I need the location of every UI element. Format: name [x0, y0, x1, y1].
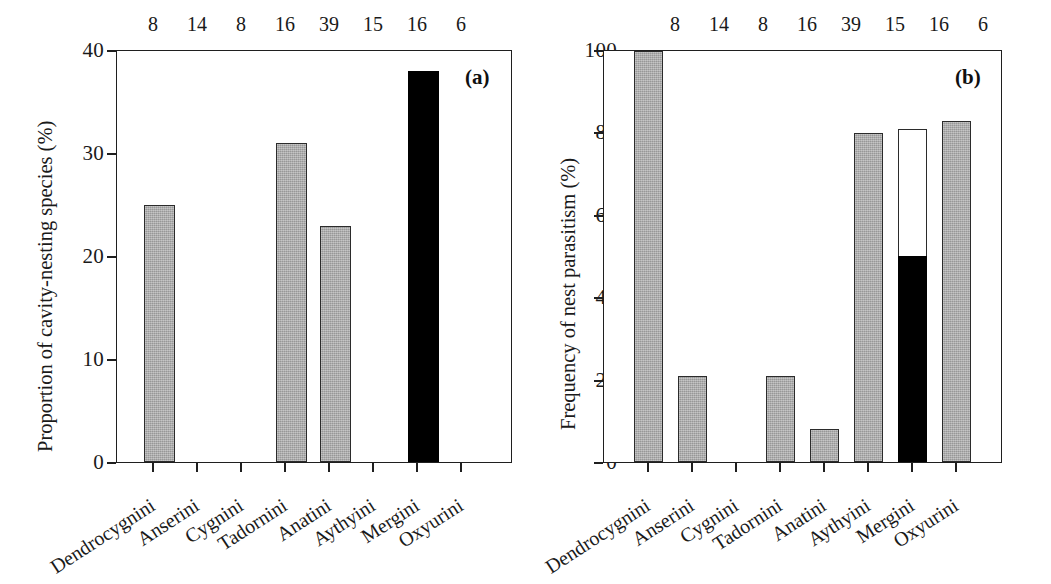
x-tick-a-7 [460, 463, 462, 472]
y-tick-a-10 [107, 359, 116, 361]
x-tick-b-5 [867, 463, 869, 472]
y-tick-label-a-20: 20 [56, 246, 104, 267]
bar-b-mergini-black [898, 256, 927, 462]
bar-b-tadornini [766, 376, 795, 462]
sample-size-b-0: 8 [653, 14, 697, 34]
x-tick-b-1 [691, 463, 693, 472]
bar-b-oxyurini [942, 121, 971, 462]
y-tick-a-20 [107, 256, 116, 258]
bar-a-tadornini [276, 143, 307, 462]
sample-size-b-5: 15 [873, 14, 917, 34]
x-tick-b-6 [911, 463, 913, 472]
y-tick-label-a-40: 40 [56, 40, 104, 61]
sample-size-b-1: 14 [697, 14, 741, 34]
bar-b-aythyini [854, 133, 883, 462]
y-tick-b-20 [594, 380, 603, 382]
y-tick-b-0 [594, 462, 603, 464]
sample-size-a-2: 8 [219, 14, 263, 34]
sample-size-b-2: 8 [741, 14, 785, 34]
sample-size-b-4: 39 [829, 14, 873, 34]
y-tick-b-80 [594, 132, 603, 134]
y-tick-b-100 [594, 50, 603, 52]
y-tick-a-0 [107, 462, 116, 464]
x-tick-a-2 [240, 463, 242, 472]
y-tick-label-a-30: 30 [56, 143, 104, 164]
panel-tag-a: (a) [465, 65, 490, 90]
x-tick-b-2 [735, 463, 737, 472]
bar-a-mergini [408, 71, 439, 462]
y-tick-b-60 [594, 215, 603, 217]
plot-area-a [116, 50, 512, 463]
panel-tag-b: (b) [955, 65, 981, 90]
x-tick-b-3 [779, 463, 781, 472]
sample-size-a-7: 6 [439, 14, 483, 34]
y-tick-a-40 [107, 50, 116, 52]
sample-size-a-6: 16 [395, 14, 439, 34]
y-tick-label-a-0: 0 [56, 452, 104, 473]
panel-b: 8 14 8 16 39 15 16 6 Frequency of nest p… [525, 0, 1050, 584]
y-tick-label-a-10: 10 [56, 349, 104, 370]
x-tick-a-6 [416, 463, 418, 472]
panel-a: 8 14 8 16 39 15 16 6 Proportion of cavit… [0, 0, 525, 584]
y-axis-label-a: Proportion of cavity-nesting species (%) [34, 121, 57, 452]
bar-b-anserini [678, 376, 707, 462]
y-tick-b-40 [594, 297, 603, 299]
bar-b-dendrocygnini [634, 51, 663, 462]
x-tick-a-0 [152, 463, 154, 472]
x-tick-a-4 [328, 463, 330, 472]
x-tick-a-3 [284, 463, 286, 472]
bar-a-dendrocygnini [144, 205, 175, 462]
x-tick-b-7 [955, 463, 957, 472]
sample-size-b-7: 6 [961, 14, 1005, 34]
x-tick-a-5 [372, 463, 374, 472]
sample-size-a-0: 8 [131, 14, 175, 34]
x-tick-a-1 [196, 463, 198, 472]
sample-size-a-3: 16 [263, 14, 307, 34]
sample-size-b-6: 16 [917, 14, 961, 34]
sample-size-a-1: 14 [175, 14, 219, 34]
sample-size-a-4: 39 [307, 14, 351, 34]
x-tick-b-0 [647, 463, 649, 472]
plot-area-b [603, 50, 1002, 463]
sample-size-b-3: 16 [785, 14, 829, 34]
figure-root: 8 14 8 16 39 15 16 6 Proportion of cavit… [0, 0, 1051, 584]
sample-size-a-5: 15 [351, 14, 395, 34]
y-tick-a-30 [107, 153, 116, 155]
x-tick-b-4 [823, 463, 825, 472]
bar-a-anatini [320, 226, 351, 462]
bar-b-anatini [810, 429, 839, 462]
